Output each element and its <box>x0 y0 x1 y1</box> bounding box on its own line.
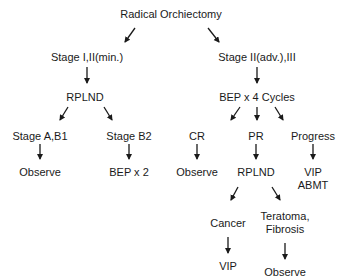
node-stage-early: Stage I,II(min.) <box>51 51 123 64</box>
node-radical-orchiectomy: Radical Orchiectomy <box>120 8 221 21</box>
arrow-rplnd-ab1 <box>60 107 68 120</box>
node-observe-cr: Observe <box>176 166 218 179</box>
node-rplnd: RPLND <box>66 91 103 104</box>
node-stage-ab1: Stage A,B1 <box>12 130 67 143</box>
node-cr: CR <box>189 130 205 143</box>
node-vip-abmt: VIP ABMT <box>298 166 329 192</box>
arrow-root-right <box>208 28 219 42</box>
node-stage-b2: Stage B2 <box>106 130 151 143</box>
node-teratoma-fibrosis: Teratoma, Fibrosis <box>261 210 310 236</box>
arrow-rplnd-b2 <box>104 107 112 120</box>
node-bep-4-cycles: BEP x 4 Cycles <box>219 91 295 104</box>
node-teratoma-line2: Fibrosis <box>261 223 310 236</box>
node-teratoma-line1: Teratoma, <box>261 210 310 223</box>
node-observe-ab1: Observe <box>19 166 61 179</box>
arrow-bep-cr <box>231 107 240 120</box>
node-vip: VIP <box>219 260 237 273</box>
node-bep-x2: BEP x 2 <box>109 166 149 179</box>
arrow-bep-progress <box>275 107 283 120</box>
node-observe-teratoma: Observe <box>264 266 306 279</box>
node-cancer: Cancer <box>210 217 245 230</box>
arrow-root-left <box>125 28 135 42</box>
arrow-rplnd-teratoma <box>272 187 280 200</box>
arrow-rplnd-cancer <box>231 187 238 200</box>
node-progress: Progress <box>291 130 335 143</box>
node-stage-advanced: Stage II(adv.),III <box>218 51 295 64</box>
node-vip-abmt-line2: ABMT <box>298 179 329 192</box>
node-rplnd-pr: RPLND <box>237 166 274 179</box>
node-pr: PR <box>248 130 263 143</box>
node-vip-abmt-line1: VIP <box>298 166 329 179</box>
